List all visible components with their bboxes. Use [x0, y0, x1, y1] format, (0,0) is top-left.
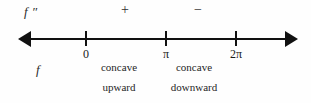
concavity-left-line2: upward — [88, 81, 150, 93]
concavity-left-line1: concave — [88, 61, 150, 73]
second-derivative-row-label: f ″ — [24, 4, 38, 20]
tick-mark-0 — [85, 31, 87, 46]
sign-positive: + — [115, 2, 135, 18]
tick-mark-2pi — [235, 31, 237, 46]
number-line — [26, 38, 292, 40]
sign-negative: − — [188, 2, 208, 18]
tick-label-0: 0 — [71, 47, 101, 62]
tick-label-pi: π — [151, 47, 181, 62]
concavity-right-line2: downward — [158, 81, 230, 93]
concavity-sign-chart: f ″ + − 0 π 2π f concave upward concave … — [0, 0, 311, 103]
tick-label-2pi: 2π — [221, 47, 251, 62]
concavity-right-line1: concave — [158, 61, 230, 73]
arrow-right-icon — [285, 31, 298, 47]
arrow-left-icon — [18, 31, 31, 47]
function-row-label: f — [36, 62, 40, 78]
tick-mark-pi — [165, 31, 167, 46]
